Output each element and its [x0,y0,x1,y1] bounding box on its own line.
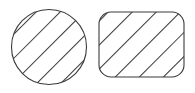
circle-hatch-lines [8,0,91,93]
hatch-line [8,30,91,93]
hatch-line [95,28,188,93]
figure-canvas: Two hatched geometric shapes A circle an… [0,0,195,93]
rounded-rect-hatch-fill [95,0,188,93]
hatch-line [8,6,91,89]
hatch-line [8,0,91,17]
hatched-circle [8,0,91,93]
hatch-line [8,54,91,93]
hatch-line [8,78,91,93]
hatch-line [95,4,188,93]
hatch-line [95,0,188,73]
hatch-line [8,0,91,41]
rounded-rect-hatch-lines [95,0,188,93]
circle-hatch-fill [8,0,91,93]
hatch-line [95,52,188,93]
hatched-shapes-figure: Two hatched geometric shapes A circle an… [0,0,195,93]
hatched-rounded-rectangle [95,0,188,93]
